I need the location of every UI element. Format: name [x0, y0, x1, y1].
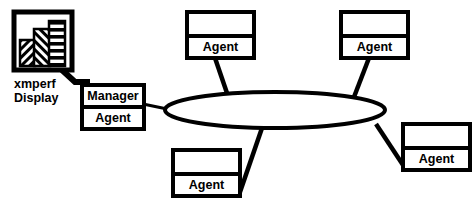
- link-network-to-agent-top-left: [215, 58, 228, 96]
- xmperf-display-caption-line2: Display: [14, 91, 59, 105]
- manager-node[interactable]: Manager Agent: [82, 85, 144, 129]
- link-network-to-agent-top-right: [354, 58, 369, 97]
- diagram-canvas: xmperf Display Manager Agent Agent Agent: [0, 0, 473, 206]
- link-network-to-agent-bottom-right: [376, 124, 403, 165]
- network-ellipse[interactable]: [165, 92, 385, 128]
- xmperf-display-bar-3: [49, 21, 65, 66]
- agent-node-top-left-label: Agent: [203, 40, 239, 54]
- topology-diagram: xmperf Display Manager Agent Agent Agent: [0, 0, 473, 206]
- network-ellipse-shape: [165, 92, 385, 128]
- manager-node-top-label: Manager: [87, 89, 139, 103]
- agent-node-top-left[interactable]: Agent: [187, 12, 254, 58]
- xmperf-display-caption-line1: xmperf: [14, 77, 57, 91]
- manager-node-bottom-label: Agent: [95, 111, 131, 125]
- agent-node-bottom-center-label: Agent: [189, 178, 225, 192]
- agent-node-bottom-right[interactable]: Agent: [403, 124, 470, 170]
- agent-node-top-right[interactable]: Agent: [341, 12, 408, 58]
- xmperf-display-icon[interactable]: [14, 12, 72, 70]
- agent-node-top-right-label: Agent: [357, 40, 393, 54]
- link-network-to-agent-bottom-center: [240, 128, 262, 192]
- agent-node-bottom-right-label: Agent: [419, 152, 455, 166]
- xmperf-display-bar-2: [34, 29, 50, 66]
- agent-node-bottom-center[interactable]: Agent: [173, 150, 240, 196]
